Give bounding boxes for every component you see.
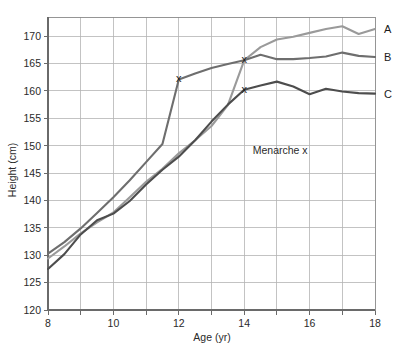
y-tick-label: 165 [23,57,41,69]
y-tick-label: 125 [23,276,41,288]
y-tick-label: 155 [23,112,41,124]
y-tick-label: 140 [23,194,41,206]
series-label-c: C [384,88,392,100]
y-tick-label: 150 [23,140,41,152]
y-axis-title: Height (cm) [6,143,18,197]
x-tick-label: 12 [173,317,185,329]
menarche-note: Menarche x [253,144,309,156]
x-axis-title: Age (yr) [193,331,230,343]
y-tick-label: 130 [23,249,41,261]
y-tick-label: 145 [23,167,41,179]
y-tick-label: 170 [23,30,41,42]
y-tick-label: 135 [23,222,41,234]
x-tick-label: 8 [45,317,51,329]
series-end-labels: ABC [384,23,392,100]
series-label-a: A [384,23,392,35]
y-tick-label: 120 [23,304,41,316]
x-tick-label: 16 [304,317,316,329]
x-tick-label: 14 [238,317,250,329]
x-tick-label: 18 [369,317,381,329]
menarche-marker-c: x [241,83,247,95]
y-tick-label: 160 [23,85,41,97]
axis-tick-labels: 1201251301351401451501551601651708101214… [23,30,381,329]
menarche-marker-b: x [176,72,182,84]
x-tick-label: 10 [108,317,120,329]
menarche-marker-a: x [241,53,247,65]
axis-tick-marks [44,36,375,315]
grid-lines [48,17,375,310]
series-label-b: B [384,51,391,63]
growth-chart-figure: xxx 120125130135140145150155160165170810… [0,0,412,350]
growth-chart-svg: xxx 120125130135140145150155160165170810… [0,0,412,350]
